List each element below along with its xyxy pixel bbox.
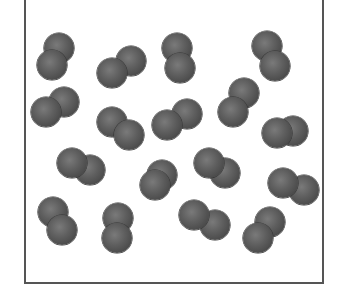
atom-front <box>140 170 170 200</box>
atom-front <box>260 51 290 81</box>
atom-front <box>97 58 127 88</box>
atom-front <box>243 223 273 253</box>
atom-front <box>37 50 67 80</box>
atom-front <box>47 215 77 245</box>
atom-front <box>218 97 248 127</box>
atom-front <box>165 53 195 83</box>
atom-front <box>102 223 132 253</box>
atom-front <box>31 97 61 127</box>
atom-front <box>268 168 298 198</box>
atom-front <box>152 110 182 140</box>
atom-front <box>262 118 292 148</box>
atom-front <box>114 120 144 150</box>
atom-front <box>57 148 87 178</box>
atom-front <box>179 200 209 230</box>
atom-front <box>194 148 224 178</box>
